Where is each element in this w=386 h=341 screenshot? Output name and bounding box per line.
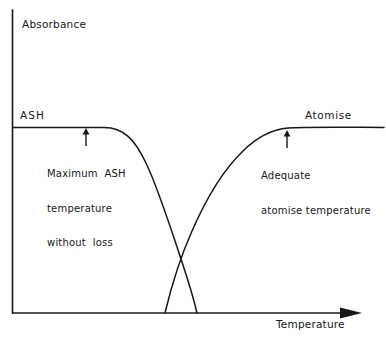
absorbance-axis-label: Absorbance (22, 19, 86, 31)
ash-curve-label: ASH (20, 110, 45, 122)
temperature-axis-arrowhead (340, 308, 362, 319)
annotation-line-1: Maximum ASH (47, 168, 126, 180)
max-ash-temperature-annotation: Maximum ASH temperature without loss (47, 145, 126, 260)
temperature-axis-label: Temperature (276, 319, 345, 331)
annotation-line-3: without loss (47, 237, 126, 249)
max-ash-temperature-arrow-icon (83, 128, 90, 146)
adequate-atomise-temperature-annotation: Adequate atomise temperature (261, 147, 371, 228)
atomise-curve-label: Atomise (305, 110, 352, 122)
adequate-atomise-temperature-arrow-icon (284, 130, 291, 148)
annotation-line-2: atomise temperature (261, 205, 371, 217)
annotation-line-2: temperature (47, 203, 126, 215)
annotation-line-1: Adequate (261, 170, 371, 182)
